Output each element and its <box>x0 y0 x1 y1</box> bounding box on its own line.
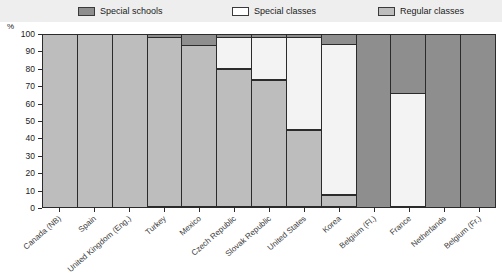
x-axis-tick-label: France <box>388 214 413 237</box>
y-axis-tick-label: 100 <box>5 29 35 39</box>
bar-segment <box>182 45 216 207</box>
legend-item-regular-classes: Regular classes <box>378 6 464 16</box>
bar-column[interactable] <box>78 35 113 207</box>
y-axis-tick-label: 90 <box>5 46 35 56</box>
bar-segment <box>252 80 286 207</box>
y-axis-tick-label: 60 <box>5 99 35 109</box>
x-axis-tick-mark <box>59 208 60 212</box>
bar-segment <box>391 93 425 207</box>
bar-column[interactable] <box>148 35 183 207</box>
legend-label-special-classes: Special classes <box>254 6 316 16</box>
x-axis-tick-label: United Kingdom (Eng.) <box>66 214 133 274</box>
bar-segment <box>322 195 356 207</box>
bar-segment <box>78 35 112 207</box>
x-axis-tick-label: Turkey <box>144 214 168 237</box>
bar-segment <box>357 35 391 207</box>
legend-item-special-schools: Special schools <box>78 6 163 16</box>
legend-swatch-regular-classes <box>378 7 395 16</box>
bar-segment <box>322 35 356 44</box>
x-axis-tick-mark <box>479 208 480 212</box>
bar-column[interactable] <box>287 35 322 207</box>
y-axis-tick-label: 20 <box>5 168 35 178</box>
bar-column[interactable] <box>322 35 357 207</box>
legend-item-special-classes: Special classes <box>232 6 316 16</box>
bar-segment <box>391 35 425 93</box>
bar-segment <box>182 35 216 45</box>
x-axis-tick-mark <box>374 208 375 212</box>
x-axis-tick-mark <box>269 208 270 212</box>
x-axis-tick-label: Belgium (Fl.) <box>338 214 378 251</box>
bar-segment <box>322 44 356 195</box>
chart-legend: Special schools Special classes Regular … <box>0 0 502 22</box>
bar-segment <box>148 37 182 207</box>
y-axis-tick-label: 50 <box>5 116 35 126</box>
x-axis-tick-mark <box>129 208 130 212</box>
bar-column[interactable] <box>461 35 495 207</box>
bar-column[interactable] <box>217 35 252 207</box>
y-axis-tick-label: 10 <box>5 186 35 196</box>
bar-segment <box>287 37 321 130</box>
bar-column[interactable] <box>43 35 78 207</box>
bar-segment <box>426 35 460 207</box>
x-axis: Canada (NB)SpainUnited Kingdom (Eng.)Tur… <box>42 208 496 278</box>
x-axis-tick-mark <box>234 208 235 212</box>
bar-column[interactable] <box>113 35 148 207</box>
bar-segment <box>217 37 251 70</box>
y-axis-tick-label: 80 <box>5 64 35 74</box>
bar-segment <box>461 35 495 207</box>
bar-column[interactable] <box>391 35 426 207</box>
x-axis-tick-mark <box>444 208 445 212</box>
bar-segment <box>43 35 77 207</box>
x-axis-tick-label: Belgium (Fr.) <box>442 214 482 251</box>
bar-segment <box>217 69 251 207</box>
bar-segment <box>113 35 147 207</box>
y-axis: 1009080706050403020100 <box>0 28 42 214</box>
x-axis-tick-label: Korea <box>321 214 343 235</box>
x-axis-tick-mark <box>339 208 340 212</box>
x-axis-tick-mark <box>304 208 305 212</box>
bar-column[interactable] <box>426 35 461 207</box>
bar-segment <box>287 130 321 207</box>
y-axis-tick-label: 30 <box>5 151 35 161</box>
x-axis-tick-label: Canada (NB) <box>22 214 63 251</box>
legend-swatch-special-classes <box>232 7 249 16</box>
x-axis-tick-mark <box>164 208 165 212</box>
bar-column[interactable] <box>182 35 217 207</box>
x-axis-tick-mark <box>94 208 95 212</box>
x-axis-tick-mark <box>409 208 410 212</box>
y-axis-tick-label: 70 <box>5 81 35 91</box>
legend-swatch-special-schools <box>78 7 95 16</box>
legend-label-regular-classes: Regular classes <box>400 6 464 16</box>
legend-label-special-schools: Special schools <box>100 6 163 16</box>
bar-column[interactable] <box>252 35 287 207</box>
x-axis-tick-label: Spain <box>77 214 98 234</box>
x-axis-tick-mark <box>199 208 200 212</box>
bar-column[interactable] <box>357 35 392 207</box>
x-axis-tick-label: Mexico <box>178 214 203 237</box>
plot-area <box>42 34 496 208</box>
y-axis-tick-label: 40 <box>5 133 35 143</box>
bar-group <box>43 35 495 207</box>
bar-segment <box>252 37 286 80</box>
y-axis-tick-label: 0 <box>5 203 35 213</box>
